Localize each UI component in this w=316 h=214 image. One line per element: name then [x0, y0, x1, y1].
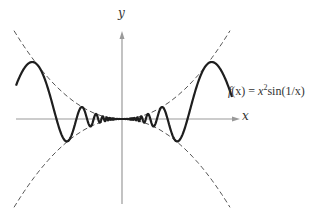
- formula-arg: (x) =: [231, 84, 258, 98]
- x-axis-arrow-icon: [232, 117, 240, 122]
- y-axis-arrow-icon: [120, 31, 125, 39]
- function-formula-label: f(x) = x2sin(1/x): [228, 83, 305, 99]
- plot-area: [0, 0, 316, 214]
- y-axis-label: y: [118, 6, 125, 20]
- x-axis-label: x: [242, 109, 249, 123]
- function-curve: [16, 62, 232, 142]
- axes: [16, 31, 240, 204]
- formula-rest: sin(1/x): [267, 84, 304, 98]
